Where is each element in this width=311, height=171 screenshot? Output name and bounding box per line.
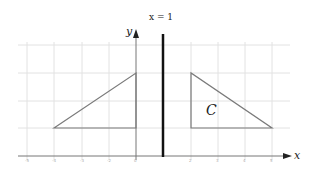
x-tick: 4 (243, 158, 246, 163)
x-axis-label: x (294, 149, 300, 162)
x-tick: 2 (189, 158, 192, 163)
grid (18, 42, 290, 160)
line-label: x = 1 (149, 12, 173, 22)
coordinate-plane (0, 0, 311, 171)
x-tick: -4 (52, 158, 56, 163)
x-tick: 5 (270, 158, 273, 163)
x-tick: 3 (216, 158, 219, 163)
x-tick: -5 (25, 158, 29, 163)
y-axis-label: y (126, 25, 132, 38)
shape-label-c: C (206, 102, 217, 118)
y-axis-arrow-icon (133, 29, 139, 38)
x-tick: 0 (134, 158, 137, 163)
x-tick: -2 (107, 158, 111, 163)
x-tick: -3 (80, 158, 84, 163)
x-axis-arrow-icon (283, 153, 292, 159)
